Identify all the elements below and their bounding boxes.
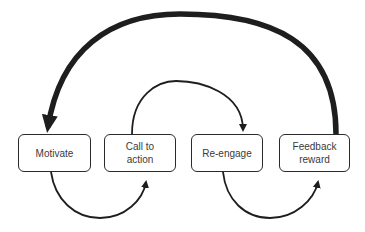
arrow-feedback-to-motivate: [48, 14, 336, 134]
node-call-to-action: Call to action: [104, 134, 176, 172]
node-re-engage: Re-engage: [191, 134, 263, 172]
arrow-motivate-to-call: [51, 172, 146, 218]
node-motivate: Motivate: [18, 134, 91, 172]
node-label: Re-engage: [202, 147, 251, 160]
node-label: Motivate: [36, 147, 74, 160]
arrow-call-to-reengage: [132, 81, 243, 134]
node-feedback-reward: Feedback reward: [279, 134, 350, 172]
node-label: Feedback reward: [293, 140, 337, 166]
node-label: Call to action: [126, 140, 154, 166]
arrows-layer: [0, 0, 365, 232]
arrow-reengage-to-feedback: [223, 172, 318, 218]
